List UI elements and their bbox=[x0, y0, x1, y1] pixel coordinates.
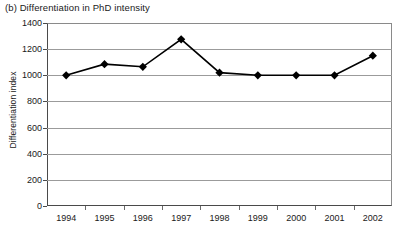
x-tick-label: 1999 bbox=[248, 213, 268, 223]
y-tick-label: 0 bbox=[37, 201, 42, 211]
y-tick-label: 400 bbox=[27, 149, 42, 159]
y-tick-label: 1000 bbox=[22, 70, 42, 80]
x-tick-label: 1996 bbox=[133, 213, 153, 223]
chart-figure: (b) Differentiation in PhD intensity Dif… bbox=[0, 0, 404, 238]
x-tick-mark bbox=[354, 206, 355, 210]
data-point-marker bbox=[292, 71, 300, 79]
x-tick-label: 1995 bbox=[94, 213, 114, 223]
x-tick-mark bbox=[162, 206, 163, 210]
y-tick-label: 200 bbox=[27, 175, 42, 185]
x-tick-label: 1994 bbox=[56, 213, 76, 223]
data-point-marker bbox=[254, 71, 262, 79]
x-tick-label: 2001 bbox=[324, 213, 344, 223]
x-tick-mark bbox=[315, 206, 316, 210]
plot-wrapper: 0200400600800100012001400 19941995199619… bbox=[47, 23, 392, 206]
y-tick-label: 1400 bbox=[22, 18, 42, 28]
x-tick-label: 1997 bbox=[171, 213, 191, 223]
y-tick-mark bbox=[43, 206, 47, 207]
data-point-marker bbox=[100, 60, 108, 68]
x-tick-mark bbox=[239, 206, 240, 210]
x-tick-mark bbox=[85, 206, 86, 210]
x-tick-mark bbox=[277, 206, 278, 210]
data-point-marker bbox=[369, 52, 377, 60]
line-series-layer bbox=[47, 23, 392, 206]
data-point-marker bbox=[62, 71, 70, 79]
x-tick-mark bbox=[200, 206, 201, 210]
y-axis-title: Differentiation index bbox=[8, 50, 18, 170]
x-tick-mark bbox=[124, 206, 125, 210]
x-tick-label: 1998 bbox=[209, 213, 229, 223]
x-tick-label: 2002 bbox=[363, 213, 383, 223]
data-point-marker bbox=[330, 71, 338, 79]
x-tick-label: 2000 bbox=[286, 213, 306, 223]
chart-title: (b) Differentiation in PhD intensity bbox=[5, 2, 150, 14]
y-tick-label: 800 bbox=[27, 96, 42, 106]
y-tick-label: 1200 bbox=[22, 44, 42, 54]
y-tick-label: 600 bbox=[27, 123, 42, 133]
